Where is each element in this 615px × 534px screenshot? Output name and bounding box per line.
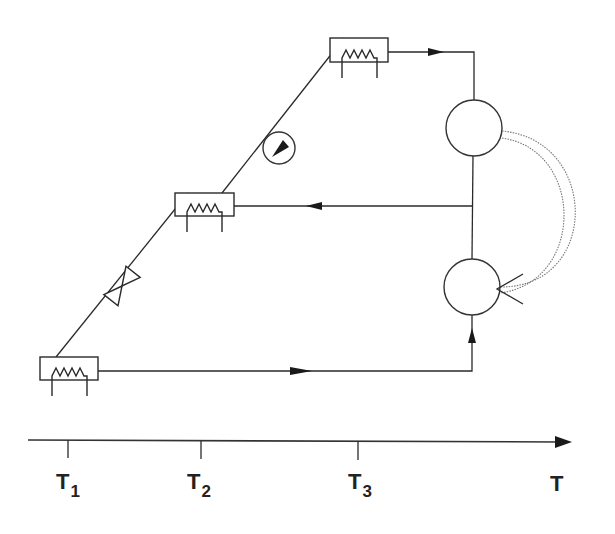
tick-label-t2: T2 [187, 469, 211, 501]
arrow-up-icon [468, 328, 476, 343]
heat-exchanger-high [330, 38, 388, 78]
upper-machine-circle [446, 100, 502, 156]
vertical-connector [472, 156, 473, 259]
arrow-open-icon [497, 274, 523, 304]
pump-icon [263, 132, 295, 164]
axis-arrow-icon [555, 436, 572, 448]
work-transfer-arc [497, 131, 575, 304]
tick-label-t3: T3 [348, 469, 372, 501]
cycle-diagram: T1 T2 T3 T [0, 0, 615, 534]
arrow-right-icon [428, 48, 444, 56]
heat-exchanger-low [40, 357, 98, 396]
top-flow-line [388, 48, 474, 100]
middle-flow-line [234, 202, 472, 210]
arrow-right-icon [290, 367, 312, 375]
axis-label-t: T [550, 471, 564, 496]
heat-exchanger-mid [175, 193, 234, 232]
arrow-left-icon [306, 202, 322, 210]
tick-label-t1: T1 [56, 469, 80, 501]
lower-machine-circle [444, 259, 500, 315]
bottom-flow-line [98, 315, 476, 375]
expansion-valve-icon [104, 266, 140, 305]
temperature-axis: T1 T2 T3 T [28, 436, 572, 501]
